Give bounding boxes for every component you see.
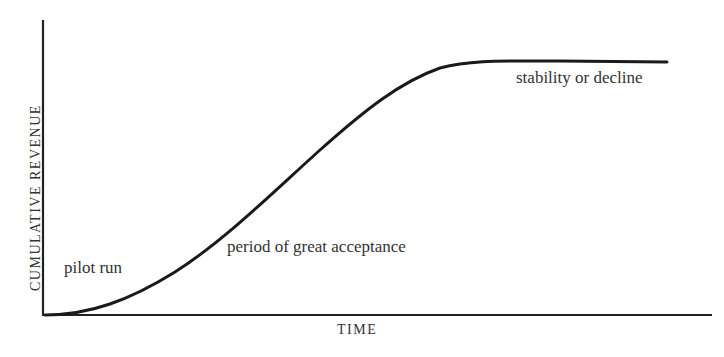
annotation-great-acceptance: period of great acceptance (227, 237, 406, 257)
y-axis-label: CUMULATIVE REVENUE (28, 104, 44, 291)
annotation-stability-decline: stability or decline (516, 68, 643, 88)
x-axis-label: TIME (337, 322, 377, 338)
revenue-curve (45, 61, 667, 315)
chart-canvas (0, 0, 724, 357)
annotation-pilot-run: pilot run (64, 258, 122, 278)
